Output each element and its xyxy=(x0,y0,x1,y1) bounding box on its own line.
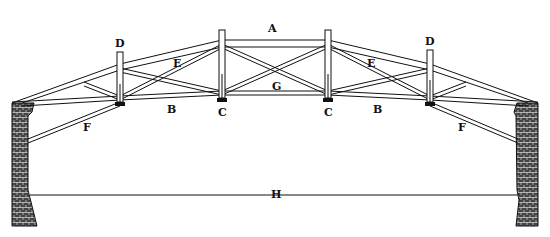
label-c-right: C xyxy=(324,106,333,119)
label-b-right: B xyxy=(373,103,382,116)
label-f-right: F xyxy=(458,121,466,134)
label-d-left: D xyxy=(115,37,125,50)
label-f-left: F xyxy=(83,121,91,134)
left-wall xyxy=(12,103,37,226)
tie-beam xyxy=(12,91,538,106)
label-c-left: C xyxy=(218,106,227,119)
label-h: H xyxy=(271,188,281,201)
label-e-right: E xyxy=(367,57,375,70)
right-wall xyxy=(514,103,538,226)
truss-diagram: A D D E E G B C C B F F H xyxy=(0,0,550,237)
struts xyxy=(28,102,518,143)
label-b-left: B xyxy=(167,103,176,116)
label-g: G xyxy=(272,80,281,93)
label-e-left: E xyxy=(173,57,181,70)
label-d-right: D xyxy=(425,35,435,48)
labels: A D D E E G B C C B F F H xyxy=(83,22,466,201)
label-a: A xyxy=(267,22,277,35)
